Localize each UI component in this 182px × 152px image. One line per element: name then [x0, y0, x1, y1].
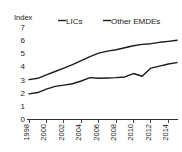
y-tick-label: 5	[21, 49, 26, 58]
y-tick-label: 2	[21, 89, 26, 98]
chart-container: Index 7 6 5 4 3 2 1 0 LICs Other EMDEs 1…	[0, 0, 182, 152]
x-tick-label: 2004	[74, 124, 83, 141]
x-tick-label: 2008	[109, 124, 118, 141]
y-tick-label: 4	[21, 62, 26, 71]
y-tick-label: 6	[21, 36, 26, 45]
x-tick-label: 2006	[92, 124, 101, 141]
y-axis-unit-label: Index	[14, 13, 33, 22]
x-tick-label: 1998	[22, 124, 31, 141]
x-tick-label: 2000	[39, 124, 48, 141]
x-tick-label: 2002	[57, 124, 66, 141]
x-tick-label: 2010	[126, 124, 135, 141]
legend-label-other-emdes: Other EMDEs	[111, 17, 160, 26]
y-tick-label: 1	[21, 102, 26, 111]
line-chart: Index 7 6 5 4 3 2 1 0 LICs Other EMDEs 1…	[0, 0, 182, 152]
legend-label-lics: LICs	[66, 17, 82, 26]
y-tick-label: 3	[21, 76, 26, 85]
y-tick-label: 0	[21, 115, 26, 124]
x-tick-label: 2012	[144, 124, 153, 141]
x-tick-label: 2014	[161, 124, 170, 141]
y-tick-label: 7	[21, 23, 26, 32]
